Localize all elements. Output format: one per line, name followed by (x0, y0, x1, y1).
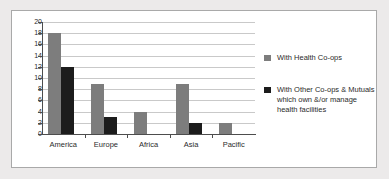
plot-area (42, 22, 255, 134)
x-tick-mark (127, 135, 128, 138)
y-axis-line (42, 22, 43, 135)
x-axis-category-label: Africa (127, 140, 170, 149)
bar (189, 123, 202, 134)
bar (219, 123, 232, 134)
x-tick-mark (85, 135, 86, 138)
bar (134, 112, 147, 134)
bar (61, 67, 74, 134)
x-axis-category-label: Asia (170, 140, 213, 149)
legend-label: With Health Co-ops (277, 53, 376, 63)
legend-label: With Other Co-ops & Mutuals which own &/… (277, 85, 376, 115)
figure-background: 02468101214161820 AmericaEuropeAfricaAsi… (0, 0, 389, 179)
y-axis: 02468101214161820 (12, 11, 42, 145)
chart-panel: 02468101214161820 AmericaEuropeAfricaAsi… (11, 10, 377, 168)
legend-swatch-icon (264, 87, 271, 93)
x-axis-category-label: Pacific (212, 140, 255, 149)
x-axis-category-label: America (42, 140, 85, 149)
x-axis-category-label: Europe (85, 140, 128, 149)
bar (48, 33, 61, 134)
legend-entry: With Health Co-ops (264, 53, 376, 63)
x-tick-mark (212, 135, 213, 138)
legend-swatch-icon (264, 55, 271, 61)
x-axis-line (42, 134, 256, 135)
legend-entry: With Other Co-ops & Mutuals which own &/… (264, 85, 376, 115)
bar (91, 84, 104, 134)
x-tick-mark (170, 135, 171, 138)
chart-legend: With Health Co-opsWith Other Co-ops & Mu… (264, 53, 376, 137)
bar (104, 117, 117, 134)
bars-layer (42, 22, 255, 134)
bar (176, 84, 189, 134)
